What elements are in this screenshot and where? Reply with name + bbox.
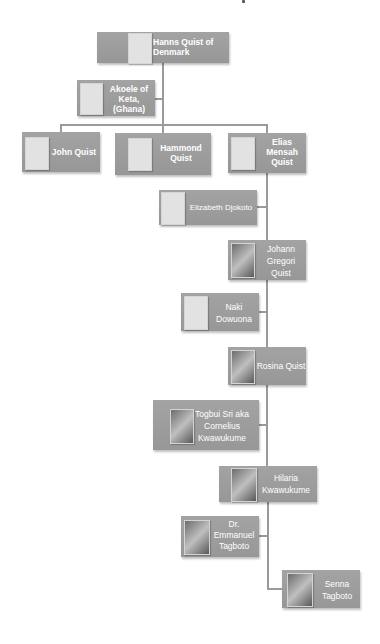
- node-johann: Johann Gregori Quist: [228, 240, 306, 280]
- node-john: John Quist: [22, 132, 100, 172]
- node-naki: Naki Dowuona: [181, 293, 259, 331]
- node-elias: Elias Mensah Quist: [228, 133, 306, 173]
- node-label: Hanns Quist of Denmark: [153, 37, 225, 57]
- connector-elias: [266, 124, 268, 133]
- portrait-photo-icon: [184, 520, 210, 555]
- connector-emmanuel: [259, 535, 268, 537]
- node-hanns: Hanns Quist of Denmark: [97, 32, 229, 63]
- connector-hilaria-trunk: [267, 502, 269, 590]
- node-label: John Quist: [50, 147, 98, 157]
- photo-placeholder-icon: [128, 138, 152, 171]
- photo-placeholder-icon: [184, 296, 208, 330]
- node-label: Togbui Sri aka Cornelius Kwawukume: [187, 408, 257, 444]
- portrait-photo-icon: [231, 243, 255, 278]
- page-fragment-mark: [242, 0, 245, 3]
- node-label: Rosina Quist: [256, 361, 306, 371]
- connector-senna: [267, 588, 283, 590]
- node-akoele: Akoele of Keta, (Ghana): [77, 80, 155, 116]
- node-rosina: Rosina Quist: [228, 347, 306, 385]
- connector-hanns-trunk: [162, 63, 164, 125]
- node-label: Akoele of Keta, (Ghana): [105, 84, 153, 114]
- connector-naki: [259, 311, 267, 313]
- node-label: Hammond Quist: [153, 143, 209, 163]
- portrait-photo-icon: [287, 573, 313, 607]
- portrait-photo-icon: [231, 468, 257, 502]
- node-label: Elias Mensah Quist: [262, 137, 302, 167]
- connector-hammond: [162, 124, 164, 133]
- node-elizabeth: Elizabeth Djokoto: [159, 190, 257, 225]
- node-hilaria: Hilaria Kwawukume: [219, 466, 317, 502]
- node-label: Elizabeth Djokoto: [185, 203, 257, 213]
- connector-akoele: [155, 98, 163, 100]
- node-emmanuel: Dr. Emmanuel Tagboto: [181, 516, 259, 557]
- photo-placeholder-icon: [231, 137, 255, 170]
- photo-placeholder-icon: [161, 192, 185, 225]
- connector-main-trunk: [266, 172, 268, 466]
- node-senna: Senna Tagboto: [282, 570, 360, 608]
- node-label: Senna Tagboto: [316, 578, 358, 602]
- connector-elizabeth: [257, 206, 267, 208]
- portrait-photo-icon: [231, 350, 255, 384]
- node-label: Hilaria Kwawukume: [257, 472, 315, 496]
- node-togbui: Togbui Sri aka Cornelius Kwawukume: [153, 400, 259, 450]
- node-label: Dr. Emmanuel Tagboto: [211, 519, 257, 552]
- photo-placeholder-icon: [128, 33, 152, 64]
- node-label: Naki Dowuona: [211, 301, 257, 325]
- connector-children-bar: [60, 124, 268, 126]
- node-label: Johann Gregori Quist: [258, 243, 304, 279]
- connector-togbui: [259, 424, 267, 426]
- photo-placeholder-icon: [80, 83, 103, 115]
- photo-placeholder-icon: [25, 137, 49, 170]
- node-hammond: Hammond Quist: [115, 133, 211, 175]
